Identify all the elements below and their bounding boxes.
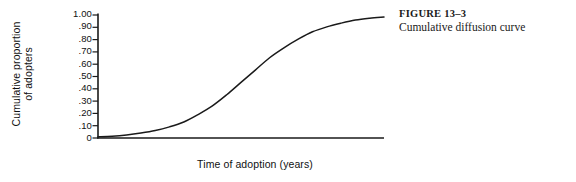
y-tick-label: .20 xyxy=(52,108,92,118)
figure-number: FIGURE 13–3 xyxy=(399,7,575,20)
figure-container: Cumulative proportion of adopters 1.00 .… xyxy=(0,0,576,182)
y-axis-tick-labels: 1.00 .90 .80 .70 .60 .50 .40 .30 .20 .10… xyxy=(52,9,92,143)
y-axis-ticks xyxy=(93,15,99,138)
y-tick-label: .50 xyxy=(52,71,92,81)
y-tick-label: 0 xyxy=(52,133,92,143)
figure-caption: FIGURE 13–3 Cumulative diffusion curve xyxy=(399,7,575,34)
y-tick-label: 1.00 xyxy=(52,9,92,19)
y-axis-title-line-1: Cumulative proportion xyxy=(10,22,22,127)
x-axis-title: Time of adoption (years) xyxy=(150,158,360,170)
plot-area xyxy=(88,5,393,147)
y-tick-label: .70 xyxy=(52,46,92,56)
y-tick-label: .10 xyxy=(52,121,92,131)
y-axis-title: Cumulative proportion of adopters xyxy=(5,9,39,139)
y-tick-label: .60 xyxy=(52,59,92,69)
y-axis-title-line-2: of adopters xyxy=(22,47,34,101)
diffusion-curve-line xyxy=(98,17,384,137)
y-tick-label: .90 xyxy=(52,21,92,31)
y-tick-label: .40 xyxy=(52,83,92,93)
y-tick-label: .30 xyxy=(52,96,92,106)
y-tick-label: .80 xyxy=(52,34,92,44)
figure-caption-text: Cumulative diffusion curve xyxy=(399,20,575,34)
